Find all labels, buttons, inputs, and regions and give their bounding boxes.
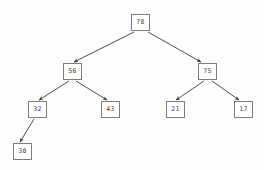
tree-edge-78-56 (74, 32, 134, 62)
tree-edge-56-43 (76, 81, 107, 100)
tree-node-78[interactable]: 78 (131, 14, 150, 31)
tree-node-32[interactable]: 32 (28, 101, 47, 118)
tree-node-30[interactable]: 30 (13, 143, 32, 160)
tree-edge-group (20, 32, 239, 142)
tree-node-21[interactable]: 21 (166, 101, 185, 118)
tree-edge-78-75 (148, 32, 201, 62)
tree-node-75[interactable]: 75 (198, 63, 217, 80)
tree-edge-32-30 (20, 119, 34, 142)
tree-edge-75-17 (212, 81, 239, 100)
tree-edge-56-32 (39, 81, 69, 100)
tree-node-56[interactable]: 56 (63, 63, 82, 80)
tree-diagram-canvas: 7856753243211730 (0, 0, 264, 170)
tree-edge-75-21 (176, 81, 204, 100)
tree-node-17[interactable]: 17 (234, 101, 253, 118)
tree-node-43[interactable]: 43 (101, 101, 120, 118)
